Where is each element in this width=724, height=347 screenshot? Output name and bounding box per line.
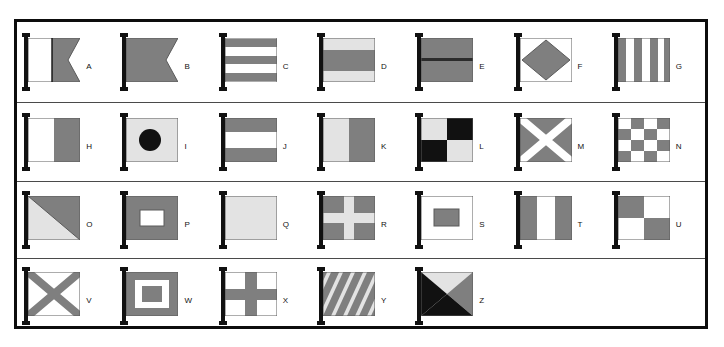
flag-body-h-icon	[28, 118, 80, 162]
flag-pole-top-icon	[612, 33, 620, 37]
flag-pole-base-icon	[317, 245, 325, 249]
flag-letter-label: E	[479, 63, 484, 71]
flag-q[interactable]: Q	[215, 191, 311, 249]
flag-body-r-icon	[323, 196, 375, 240]
flag-u[interactable]: U	[608, 191, 704, 249]
flag-pole-base-icon	[612, 87, 620, 91]
flag-cell-p[interactable]: P	[115, 182, 213, 258]
flag-letter-label: C	[283, 63, 289, 71]
flag-e[interactable]: E	[411, 33, 507, 91]
flag-a[interactable]: A	[18, 33, 114, 91]
flag-z[interactable]: Z	[411, 267, 507, 325]
flag-s[interactable]: S	[411, 191, 507, 249]
flag-pole-top-icon	[415, 267, 423, 271]
flag-b[interactable]: B	[116, 33, 212, 91]
flag-cell-w[interactable]: W	[115, 259, 213, 332]
flag-body-u-icon	[618, 196, 670, 240]
flag-cell-o[interactable]: O	[17, 182, 115, 258]
flag-pole-top-icon	[120, 33, 128, 37]
flag-c[interactable]: C	[215, 33, 311, 91]
flag-pole-top-icon	[120, 113, 128, 117]
flag-cell-t[interactable]: T	[508, 182, 606, 258]
flag-cell-l[interactable]: L	[410, 103, 508, 181]
flag-cell-r[interactable]: R	[312, 182, 410, 258]
signal-flag-chart: ABCDEFGHIJKLMNOPQRSTUVWXYZ	[0, 0, 724, 347]
flag-cell-u[interactable]: U	[607, 182, 705, 258]
flag-cell-h[interactable]: H	[17, 103, 115, 181]
flag-letter-label: K	[381, 143, 386, 151]
flag-cell-y[interactable]: Y	[312, 259, 410, 332]
flag-p[interactable]: P	[116, 191, 212, 249]
flag-pole-base-icon	[120, 245, 128, 249]
flag-f[interactable]: F	[510, 33, 606, 91]
flag-cell-m[interactable]: M	[508, 103, 606, 181]
flag-l[interactable]: L	[411, 113, 507, 171]
flag-pole-base-icon	[22, 167, 30, 171]
flag-cell-z[interactable]: Z	[410, 259, 508, 332]
flag-pole-top-icon	[317, 267, 325, 271]
flag-letter-label: S	[479, 221, 484, 229]
flag-body-x-icon	[225, 272, 277, 316]
flag-pole-base-icon	[415, 87, 423, 91]
flag-pole-top-icon	[219, 33, 227, 37]
flag-pole-base-icon	[415, 167, 423, 171]
flag-cell-d[interactable]: D	[312, 22, 410, 102]
flag-cell-x[interactable]: X	[214, 259, 312, 332]
flag-cell-a[interactable]: A	[17, 22, 115, 102]
flag-pole-base-icon	[120, 321, 128, 325]
flag-i[interactable]: I	[116, 113, 212, 171]
flag-cell-f[interactable]: F	[508, 22, 606, 102]
flag-letter-label: Q	[283, 221, 289, 229]
flag-cell-e[interactable]: E	[410, 22, 508, 102]
flag-cell-g[interactable]: G	[607, 22, 705, 102]
flag-body-s-icon	[421, 196, 473, 240]
flag-letter-label: J	[283, 143, 287, 151]
flag-pole-base-icon	[612, 167, 620, 171]
flag-g[interactable]: G	[608, 33, 704, 91]
flag-cell-q[interactable]: Q	[214, 182, 312, 258]
flag-r[interactable]: R	[313, 191, 409, 249]
flag-x[interactable]: X	[215, 267, 311, 325]
flag-t[interactable]: T	[510, 191, 606, 249]
flag-n[interactable]: N	[608, 113, 704, 171]
flag-pole-top-icon	[219, 191, 227, 195]
flag-cell-s[interactable]: S	[410, 182, 508, 258]
flag-o[interactable]: O	[18, 191, 114, 249]
flag-h[interactable]: H	[18, 113, 114, 171]
flag-pole-top-icon	[612, 113, 620, 117]
flag-body-a-icon	[28, 38, 80, 82]
flag-body-z-icon	[421, 272, 473, 316]
flag-letter-label: M	[578, 143, 585, 151]
flag-letter-label: O	[86, 221, 92, 229]
flag-body-m-icon	[520, 118, 572, 162]
flag-body-b-icon	[126, 38, 178, 82]
flag-pole-base-icon	[219, 245, 227, 249]
flag-letter-label: D	[381, 63, 387, 71]
flag-cell-n[interactable]: N	[607, 103, 705, 181]
flag-k[interactable]: K	[313, 113, 409, 171]
flag-pole-top-icon	[415, 191, 423, 195]
flag-cell-i[interactable]: I	[115, 103, 213, 181]
flag-w[interactable]: W	[116, 267, 212, 325]
flag-cell-b[interactable]: B	[115, 22, 213, 102]
chart-frame: ABCDEFGHIJKLMNOPQRSTUVWXYZ	[14, 19, 708, 329]
flag-cell-j[interactable]: J	[214, 103, 312, 181]
flag-pole-base-icon	[514, 245, 522, 249]
flag-body-v-icon	[28, 272, 80, 316]
flag-m[interactable]: M	[510, 113, 606, 171]
flag-cell-c[interactable]: C	[214, 22, 312, 102]
flag-cell-k[interactable]: K	[312, 103, 410, 181]
flag-pole-top-icon	[219, 267, 227, 271]
flag-pole-top-icon	[317, 191, 325, 195]
flag-v[interactable]: V	[18, 267, 114, 325]
flag-letter-label: X	[283, 297, 288, 305]
flag-cell-v[interactable]: V	[17, 259, 115, 332]
flag-pole-base-icon	[415, 245, 423, 249]
flag-y[interactable]: Y	[313, 267, 409, 325]
flag-pole-base-icon	[22, 321, 30, 325]
flag-pole-top-icon	[415, 113, 423, 117]
flag-pole-base-icon	[317, 321, 325, 325]
flag-pole-top-icon	[612, 191, 620, 195]
flag-j[interactable]: J	[215, 113, 311, 171]
flag-d[interactable]: D	[313, 33, 409, 91]
